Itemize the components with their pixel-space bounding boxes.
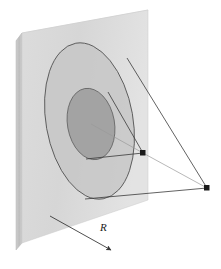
fresnel-zone-plate-diagram bbox=[0, 0, 221, 269]
slab-side-face bbox=[16, 33, 22, 250]
figure-container: R bbox=[0, 0, 221, 269]
near-source-point bbox=[140, 150, 146, 156]
radius-label: R bbox=[100, 222, 107, 233]
ray-near-point-to-far-point bbox=[143, 153, 207, 188]
far-source-point bbox=[204, 185, 210, 191]
